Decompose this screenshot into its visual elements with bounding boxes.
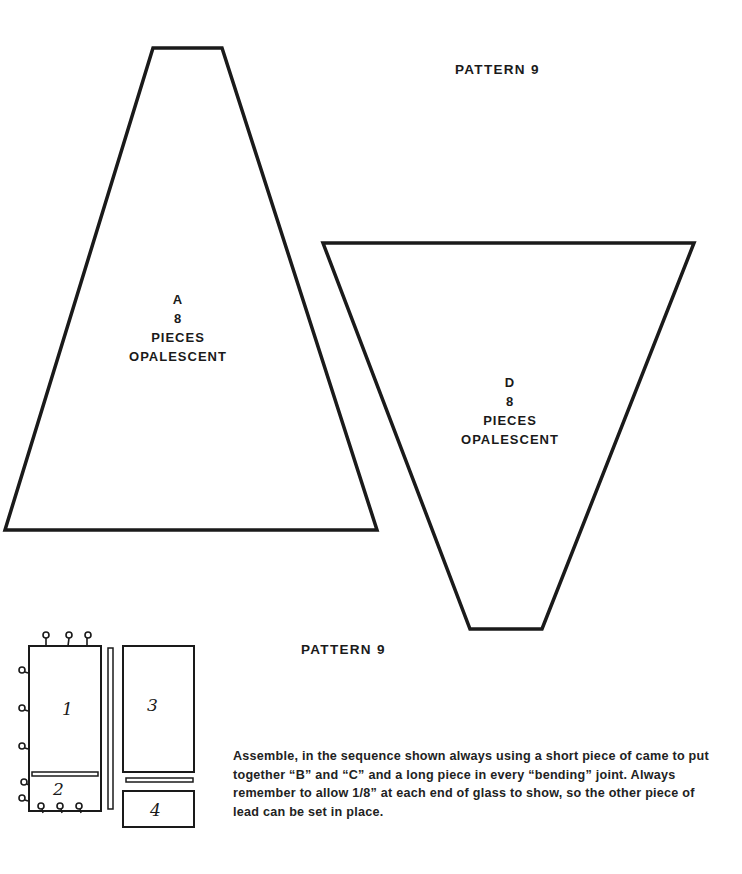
- piece-a-id: A: [118, 290, 238, 309]
- pattern-piece-a-outline: [5, 48, 377, 530]
- step-label-3: 3: [147, 695, 158, 715]
- piece-d-material: OPALESCENT: [450, 430, 570, 449]
- piece-a-label: A 8 PIECES OPALESCENT: [118, 290, 238, 366]
- came-strip-long: [108, 648, 113, 809]
- came-strip-3-4: [126, 778, 193, 782]
- step-label-4: 4: [149, 800, 161, 820]
- pattern-title-top: PATTERN 9: [455, 62, 540, 77]
- step-label-1: 1: [62, 699, 73, 719]
- step-label-2: 2: [52, 779, 64, 799]
- piece-a-unit: PIECES: [118, 328, 238, 347]
- pattern-title-bottom: PATTERN 9: [301, 642, 386, 657]
- piece-a-count: 8: [118, 309, 238, 328]
- tack-marks-left: [19, 667, 29, 801]
- came-strip-1-2: [32, 772, 98, 776]
- piece-d-unit: PIECES: [450, 411, 570, 430]
- piece-d-count: 8: [450, 392, 570, 411]
- pattern-sheet: 1 2 3 4: [0, 0, 742, 874]
- assembly-panel-3: [123, 646, 194, 772]
- piece-d-label: D 8 PIECES OPALESCENT: [450, 373, 570, 449]
- piece-d-id: D: [450, 373, 570, 392]
- piece-a-material: OPALESCENT: [118, 347, 238, 366]
- assembly-panel-1-2: [29, 646, 101, 811]
- assembly-diagram: [19, 632, 194, 827]
- tack-marks-top: [43, 632, 91, 646]
- assembly-instructions: Assemble, in the sequence shown always u…: [233, 747, 713, 821]
